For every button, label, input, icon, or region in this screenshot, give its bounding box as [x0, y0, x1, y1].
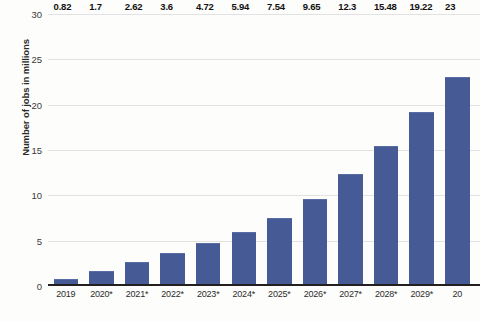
bar-value-label: 4.72 [196, 1, 214, 12]
bar-group: 9.65 [297, 14, 333, 286]
bar-group: 12.3 [333, 14, 369, 286]
y-axis-tick-label: 20 [31, 99, 42, 110]
bar-value-label: 7.54 [267, 1, 285, 12]
bar-value-label: 12.3 [338, 1, 356, 12]
x-axis-tick-label: 2020* [84, 289, 120, 305]
bar[interactable]: 15.48 [374, 146, 399, 286]
bar[interactable]: 7.54 [267, 218, 292, 286]
bar-value-label: 3.6 [160, 1, 173, 12]
bar-value-label: 9.65 [303, 1, 321, 12]
bar[interactable]: 4.72 [196, 243, 221, 286]
bar-group: 1.7 [84, 14, 120, 286]
x-axis-tick-label: 2026* [297, 289, 333, 305]
bar-group: 19.22 [404, 14, 440, 286]
bar-group: 0.82 [48, 14, 84, 286]
bar-group: 2.62 [119, 14, 155, 286]
x-axis-tick-label: 2028* [368, 289, 404, 305]
bar-value-label: 23 [445, 1, 455, 12]
bar[interactable]: 19.22 [409, 112, 434, 286]
bar-series: 0.821.72.623.64.725.947.549.6512.315.481… [48, 14, 480, 286]
bar[interactable]: 2.62 [125, 262, 150, 286]
x-axis-labels: 20192020*2021*2022*2023*2024*2025*2026*2… [48, 289, 480, 305]
bar[interactable]: 12.3 [338, 174, 363, 286]
bar-value-label: 5.94 [232, 1, 250, 12]
x-axis-tick-label: 2027* [333, 289, 369, 305]
x-axis-tick-label: 2024* [226, 289, 262, 305]
x-axis-tick-label: 2029* [404, 289, 440, 305]
bar[interactable]: 9.65 [303, 199, 328, 286]
x-axis-tick-label: 2023* [190, 289, 226, 305]
bar-chart: Number of jobs in millions 051015202530 … [0, 0, 480, 322]
bar-group: 7.54 [262, 14, 298, 286]
y-axis-tick-label: 15 [31, 145, 42, 156]
bar[interactable]: 3.6 [160, 253, 185, 286]
x-axis-tick-label: 20 [440, 289, 476, 305]
y-axis-title: Number of jobs in millions [20, 13, 31, 183]
bar[interactable]: 5.94 [232, 232, 257, 286]
bar-group: 23 [440, 14, 476, 286]
bar-value-label: 15.48 [374, 1, 397, 12]
bar-group: 4.72 [190, 14, 226, 286]
bar-value-label: 0.82 [54, 1, 72, 12]
bar-group: 3.6 [155, 14, 191, 286]
x-axis-line [48, 284, 480, 287]
y-axis-tick-label: 25 [31, 54, 42, 65]
bar-group: 15.48 [368, 14, 404, 286]
y-axis-tick-label: 0 [37, 281, 42, 292]
bar-value-label: 19.22 [409, 1, 432, 12]
bar[interactable]: 23 [445, 77, 470, 286]
y-axis-tick-label: 10 [31, 190, 42, 201]
x-axis-tick-label: 2022* [155, 289, 191, 305]
plot-area: 051015202530 0.821.72.623.64.725.947.549… [48, 14, 480, 286]
bar-value-label: 1.7 [89, 1, 102, 12]
bar-value-label: 2.62 [125, 1, 143, 12]
x-axis-tick-label: 2025* [262, 289, 298, 305]
x-axis-tick-label: 2019 [48, 289, 84, 305]
x-axis-tick-label: 2021* [119, 289, 155, 305]
bar-group: 5.94 [226, 14, 262, 286]
y-axis-tick-label: 5 [37, 235, 42, 246]
y-axis-tick-label: 30 [31, 9, 42, 20]
